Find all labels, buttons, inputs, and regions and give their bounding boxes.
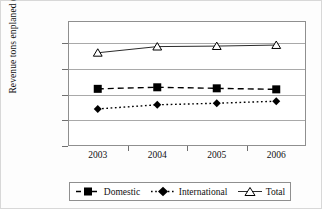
legend-label-total: Total bbox=[266, 187, 285, 197]
legend-swatch-international bbox=[150, 186, 176, 197]
x-tick-mark-1 bbox=[128, 146, 129, 151]
plot-area bbox=[68, 21, 306, 146]
legend-label-international: International bbox=[179, 187, 228, 197]
x-tick-label-2006: 2006 bbox=[256, 150, 296, 160]
legend-item-international: International bbox=[150, 186, 228, 197]
x-tick-mark-2 bbox=[187, 146, 188, 151]
y-tick-mark-0 bbox=[62, 146, 68, 147]
y-axis-title: Revenue tons enplaned (millions) bbox=[8, 0, 22, 98]
x-tick-label-2005: 2005 bbox=[197, 150, 237, 160]
chart-figure: Revenue tons enplaned (millions) 0.00 5.… bbox=[0, 0, 322, 209]
legend-item-total: Total bbox=[237, 186, 285, 197]
gridline-10 bbox=[69, 95, 305, 96]
x-tick-label-2003: 2003 bbox=[78, 150, 118, 160]
x-tick-mark-3 bbox=[247, 146, 248, 151]
x-tick-label-2004: 2004 bbox=[137, 150, 177, 160]
gridline-20 bbox=[69, 43, 305, 44]
legend-swatch-total bbox=[237, 186, 263, 197]
legend-item-domestic: Domestic bbox=[75, 186, 140, 197]
legend-label-domestic: Domestic bbox=[104, 187, 140, 197]
legend-swatch-domestic bbox=[75, 186, 101, 197]
gridline-5 bbox=[69, 120, 305, 121]
gridline-15 bbox=[69, 69, 305, 70]
chart-legend: Domestic International Total bbox=[69, 182, 291, 201]
